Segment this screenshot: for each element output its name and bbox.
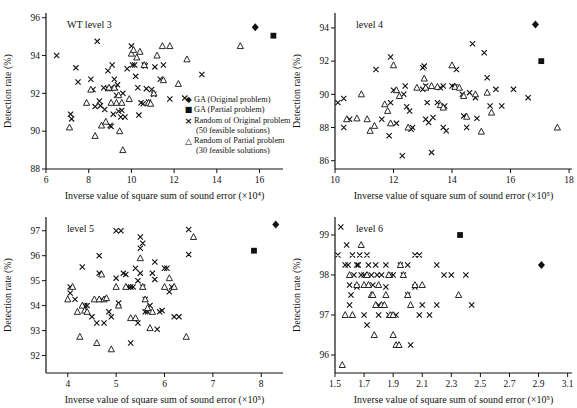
series-cross [54,39,204,129]
data-point-triangle [103,118,109,124]
data-point-cross [407,108,412,113]
data-point-cross [364,252,369,257]
y-axis-label: Detection rate (%) [2,258,14,332]
data-point-triangle [488,109,494,115]
data-point-cross [400,153,405,158]
series-filled-square [270,33,276,39]
x-tick-label: 16 [255,175,265,185]
data-point-cross [128,340,133,345]
data-point-triangle [161,283,167,289]
data-point-cross [464,125,469,130]
data-point-cross [373,262,378,267]
data-point-triangle [74,308,80,314]
y-axis-label: Detection rate (%) [291,54,303,128]
data-point-triangle [449,62,455,68]
data-point-cross [88,77,93,82]
data-point-cross [361,312,366,317]
data-point-triangle [66,124,72,130]
data-point-triangle [414,84,420,90]
data-point-cross [403,83,408,88]
data-point-triangle [184,56,190,62]
data-point-cross [97,253,102,258]
data-point-cross [449,272,454,277]
legend-item-ga-partial: ■ GA (Partial problem) [184,105,291,115]
data-point-cross [150,271,155,276]
y-tick-label: 98 [320,270,330,280]
data-point-triangle [342,312,348,318]
data-point-cross [434,302,439,307]
data-point-triangle [147,325,153,331]
data-point-cross [429,150,434,155]
y-tick-label: 90 [31,126,41,136]
panel-title: level 6 [356,223,383,234]
data-point-triangle [554,124,560,130]
series-filled-square [251,248,257,254]
data-point-filled-square [538,58,544,64]
y-tick-label: 97 [31,226,41,236]
data-point-cross [394,121,399,126]
y-tick-label: 92 [320,56,330,66]
x-axis-label: Inverse value of square sum of sound err… [65,394,265,406]
y-tick-label: 88 [31,164,41,174]
data-point-cross [155,327,160,332]
series-filled-square [538,58,544,64]
series-filled-diamond [252,23,259,31]
x-tick-label: 1.9 [387,379,399,389]
data-point-cross [463,272,468,277]
x-tick-label: 12 [389,175,399,185]
data-point-triangle [190,234,196,240]
data-point-triangle [484,89,490,95]
data-point-cross [417,252,422,257]
data-point-cross [167,96,172,101]
x-tick-label: 3.1 [562,379,574,389]
data-point-triangle [154,52,160,58]
data-point-cross [347,302,352,307]
data-point-cross [75,79,80,84]
data-point-cross [102,107,107,112]
x-tick-label: 8 [86,175,91,185]
data-point-cross [73,65,78,70]
data-point-triangle [119,99,125,105]
y-tick-label: 94 [31,301,41,311]
data-point-cross [118,228,123,233]
y-axis-label: Detection rate (%) [2,54,14,128]
x-tick-label: 2.7 [504,379,516,389]
data-point-cross [93,104,98,109]
data-point-cross [138,234,143,239]
data-point-cross [388,54,393,59]
x-tick-label: 18 [564,175,574,185]
data-point-triangle [358,91,364,97]
data-point-cross [172,314,177,319]
data-point-cross [167,289,172,294]
data-point-cross [376,312,381,317]
data-point-triangle [419,282,425,288]
data-point-triangle [132,315,138,321]
panel-title: WT level 3 [67,19,112,30]
data-point-cross [499,103,504,108]
data-point-cross [89,314,94,319]
chart-level-4: 10121416188688909294level 4Inverse value… [289,0,577,204]
data-point-triangle [117,128,123,134]
y-tick-label: 86 [320,156,330,166]
data-point-cross [427,312,432,317]
data-point-cross [152,259,157,264]
data-point-cross [114,276,119,281]
x-tick-label: 6 [44,175,49,185]
data-point-cross [138,271,143,276]
data-point-cross [133,266,138,271]
data-point-cross [426,120,431,125]
data-point-cross [444,128,449,133]
data-point-triangle [371,122,377,128]
legend-label: Random of Original problem [194,116,291,126]
data-point-triangle [113,283,119,289]
data-point-cross [357,252,362,257]
data-point-cross [383,262,388,267]
series-filled-diamond [538,261,545,269]
data-point-triangle [396,93,402,99]
data-point-cross [120,91,125,96]
legend-label: Random of Partial problem [194,136,285,146]
x-tick-label: 4 [65,379,70,389]
data-point-cross [487,103,492,108]
data-point-filled-square [457,232,463,238]
y-tick-label: 96 [31,13,41,23]
